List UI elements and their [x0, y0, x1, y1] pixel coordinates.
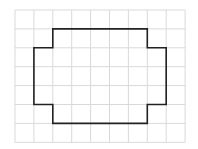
grid-lines — [15, 10, 185, 142]
outlined-polygon — [34, 29, 166, 124]
grid-diagram — [0, 0, 198, 149]
